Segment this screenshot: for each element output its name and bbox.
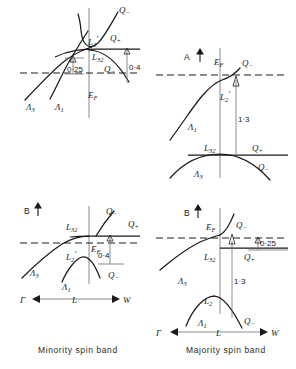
momentum-axis-right: Γ L W [155, 328, 280, 338]
label-q-minus-lower: Q− [244, 316, 255, 327]
label-l2-prime: L2′ [219, 89, 231, 103]
axis-arrow-right-icon [112, 295, 120, 303]
momentum-axis-left: Γ L W [19, 295, 132, 305]
panel-bottom-right: B EF Q− L32 Q+ Λ3 L2′ Λ1 Q− 0·25 1·3 [148, 186, 296, 336]
label-q-minus-upper: Q− [242, 58, 253, 69]
measurement-1-3: 1·3 [234, 277, 246, 286]
label-q-minus-upper: Q− [236, 220, 247, 231]
axis-label-w: W [123, 295, 132, 305]
measurement-1-3: 1·3 [238, 115, 250, 124]
label-fermi: EF [213, 57, 225, 68]
panel-top-left: Q− L2′ Q+ L32 Q− Λ3 Λ1 EF 0·25 0·4 [0, 0, 150, 180]
label-lambda-3: Λ3 [193, 169, 203, 180]
marker-b: B [24, 206, 30, 216]
label-l2-prime: L2′ [203, 293, 215, 307]
label-lambda-3: Λ3 [177, 276, 187, 287]
marker-b: B [184, 208, 190, 218]
up-arrow-icon [195, 205, 201, 218]
panel-top-right: A EF Q− L2′ Λ1 L32 Q+ Λ3 Q− 1·3 [148, 20, 296, 200]
caption-minority-spin-band: Minority spin band [38, 345, 118, 355]
measurement-0-25: 0·25 [260, 239, 277, 248]
label-q-minus-lower: Q− [104, 64, 115, 75]
axis-arrow-left-icon [32, 295, 40, 303]
measurement-0-4: 0·4 [98, 251, 110, 260]
axis-arrow-right-icon [260, 328, 268, 336]
label-lambda-1: Λ1 [197, 318, 207, 329]
label-q-minus-lower: Q− [258, 162, 269, 173]
label-q-plus: Q+ [128, 219, 139, 230]
axis-label-gamma: Γ [19, 295, 26, 305]
up-arrow-icon [35, 203, 41, 216]
label-q-minus-upper: Q− [119, 5, 130, 16]
axis-label-l: L [71, 295, 77, 305]
axis-label-w: W [271, 328, 280, 338]
label-q-plus: Q+ [244, 252, 255, 263]
curve-lambda-1 [170, 68, 240, 140]
label-l32: L32 [203, 252, 216, 263]
curve-q-minus-upper [220, 214, 234, 235]
label-l32: L32 [65, 222, 78, 233]
axis-arrow-left-icon [170, 328, 178, 336]
label-lambda-3: Λ3 [29, 268, 39, 279]
label-lambda-1: Λ1 [187, 122, 197, 133]
label-lambda-1: Λ1 [54, 102, 64, 113]
label-fermi: EF [205, 222, 217, 233]
axis-label-gamma: Γ [155, 328, 162, 338]
label-fermi: EF [87, 90, 99, 101]
panel-bottom-left: B L32 Q− Q+ EF Λ3 L2′ Λ1 Q− 0·4 [0, 186, 150, 306]
axis-label-l: L [215, 328, 221, 338]
label-q-minus-upper: Q− [106, 206, 117, 217]
caption-majority-spin-band: Majority spin band [186, 345, 266, 355]
measurement-0-25: 0·25 [67, 65, 84, 74]
label-q-plus: Q+ [252, 143, 263, 154]
band-structure-figure: Q− L2′ Q+ L32 Q− Λ3 Λ1 EF 0·25 0·4 [0, 0, 296, 369]
label-l32: L32 [203, 143, 216, 154]
label-lambda-1: Λ1 [61, 282, 71, 293]
marker-a: A [184, 52, 190, 62]
label-l2-prime: L2′ [87, 34, 99, 48]
up-arrow-icon [197, 49, 203, 62]
measurement-0-4: 0·4 [129, 63, 141, 72]
label-q-minus-lower: Q− [108, 270, 119, 281]
curve-lambda-3 [160, 235, 220, 270]
label-q-plus: Q+ [110, 33, 121, 44]
label-lambda-3: Λ3 [25, 102, 35, 113]
